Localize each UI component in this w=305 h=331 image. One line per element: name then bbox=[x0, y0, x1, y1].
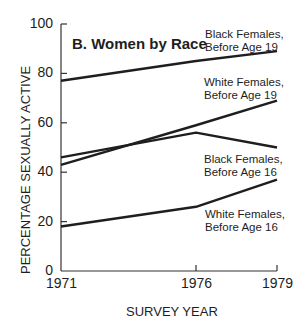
series-label-line: Black Females, bbox=[205, 28, 284, 41]
series-label-line: Black Females, bbox=[204, 153, 283, 166]
x-tick-label: 1979 bbox=[262, 275, 293, 291]
x-ticks bbox=[196, 265, 277, 271]
y-axis-label: PERCENTAGE SEXUALLY ACTIVE bbox=[18, 66, 33, 274]
series-label: Black Females,Before Age 19 bbox=[205, 28, 284, 54]
series-label-line: Before Age 16 bbox=[204, 166, 283, 179]
x-axis-label: SURVEY YEAR bbox=[126, 304, 218, 319]
y-ticks bbox=[61, 24, 67, 222]
chart-title: B. Women by Race bbox=[72, 35, 207, 52]
series-label-line: Before Age 16 bbox=[205, 221, 285, 234]
series-label: Black Females,Before Age 16 bbox=[204, 153, 283, 179]
series-label-line: White Females, bbox=[204, 76, 284, 89]
x-tick-label: 1971 bbox=[46, 275, 77, 291]
series-label: White Females,Before Age 16 bbox=[205, 208, 285, 234]
y-tick-label: 100 bbox=[23, 15, 53, 31]
series-label-line: Before Age 19 bbox=[205, 41, 284, 54]
series-label-line: Before Age 19 bbox=[204, 89, 284, 102]
x-tick-label: 1976 bbox=[181, 275, 212, 291]
series-label: White Females,Before Age 19 bbox=[204, 76, 284, 102]
series-label-line: White Females, bbox=[205, 208, 285, 221]
